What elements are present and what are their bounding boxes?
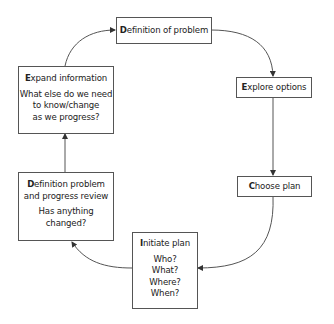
node-title: Definition of problem bbox=[117, 25, 211, 37]
node-title: Initiate plan bbox=[133, 238, 197, 250]
node-question: Has anything changed? bbox=[19, 206, 113, 229]
node-definition-of-problem: Definition of problem bbox=[116, 17, 212, 44]
node-title: Definition problem bbox=[19, 179, 113, 191]
node-title: Explore options bbox=[237, 82, 311, 94]
arrow-choose-to-initiate bbox=[198, 196, 273, 268]
node-expand-information: Expand information What else do we need … bbox=[18, 66, 114, 134]
node-title-line2: and progress review bbox=[19, 191, 113, 203]
arrow-expand-to-definition bbox=[65, 30, 115, 66]
node-question: What else do we need to know/change as w… bbox=[19, 89, 113, 124]
node-title: Expand information bbox=[19, 73, 113, 85]
node-initiate-plan: Initiate plan Who? What? Where? When? bbox=[132, 232, 198, 309]
node-title: Choose plan bbox=[238, 181, 311, 193]
arrow-initiate-to-review bbox=[72, 242, 132, 268]
arrow-definition-to-explore bbox=[211, 30, 273, 76]
node-explore-options: Explore options bbox=[236, 77, 312, 98]
node-definition-problem-review: Definition problem and progress review H… bbox=[18, 172, 114, 241]
node-choose-plan: Choose plan bbox=[237, 176, 312, 197]
node-questions: Who? What? Where? When? bbox=[133, 254, 197, 300]
